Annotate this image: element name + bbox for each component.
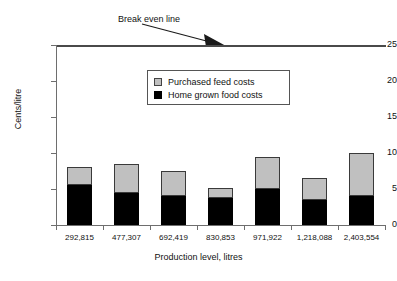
bar-segment-home-grown	[208, 198, 233, 225]
legend-label-purchased-feed-costs: Purchased feed costs	[168, 77, 255, 87]
bar-477307[interactable]	[114, 164, 139, 225]
x-tick-label-0: 292,815	[56, 233, 103, 242]
bar-segment-home-grown	[255, 189, 280, 225]
x-tick-label-2: 692,419	[150, 233, 197, 242]
x-tick-6	[338, 226, 339, 230]
x-axis-title: Production level, litres	[0, 252, 397, 262]
x-tick-2	[150, 226, 151, 230]
chart-container: Break even line 25 20 15 10 5 0 Cents/li…	[0, 0, 397, 281]
x-tick-label-6: 2,403,554	[336, 233, 387, 242]
bar-segment-home-grown	[161, 196, 186, 225]
bar-segment-home-grown	[114, 193, 139, 225]
x-tick-label-5: 1,218,088	[289, 233, 340, 242]
legend-item-home-grown-food-costs: Home grown food costs	[154, 89, 283, 101]
x-tick-label-4: 971,922	[244, 233, 291, 242]
bar-segment-purchased	[161, 171, 186, 196]
bar-2403554[interactable]	[349, 153, 374, 225]
x-tick-1	[103, 226, 104, 230]
bar-segment-purchased	[255, 157, 280, 189]
x-tick-3	[197, 226, 198, 230]
x-axis-line	[56, 225, 386, 226]
bar-segment-purchased	[349, 153, 374, 196]
x-tick-4	[244, 226, 245, 230]
x-tick-label-3: 830,853	[197, 233, 244, 242]
bar-692419[interactable]	[161, 171, 186, 225]
bar-971922[interactable]	[255, 157, 280, 225]
bar-1218088[interactable]	[302, 178, 327, 225]
x-tick-0	[56, 226, 57, 230]
gray-square-icon	[154, 78, 162, 86]
bar-292815[interactable]	[67, 167, 92, 225]
x-tick-label-1: 477,307	[103, 233, 150, 242]
x-tick-5	[291, 226, 292, 230]
bar-segment-home-grown	[302, 200, 327, 225]
legend-item-purchased-feed-costs: Purchased feed costs	[154, 76, 283, 88]
bar-830853[interactable]	[208, 188, 233, 225]
bar-segment-purchased	[302, 178, 327, 200]
chart-legend: Purchased feed costs Home grown food cos…	[147, 70, 290, 105]
bar-segment-home-grown	[67, 185, 92, 225]
black-square-icon	[154, 91, 162, 99]
bar-segment-purchased	[67, 167, 92, 185]
x-tick-7	[385, 226, 386, 230]
bar-segment-purchased	[114, 164, 139, 193]
y-axis-title: Cents/litre	[13, 69, 23, 149]
bar-segment-home-grown	[349, 196, 374, 225]
legend-label-home-grown-food-costs: Home grown food costs	[168, 90, 263, 100]
bar-segment-purchased	[208, 188, 233, 198]
